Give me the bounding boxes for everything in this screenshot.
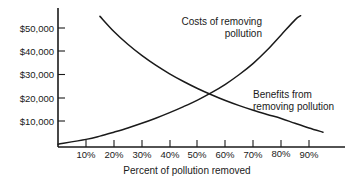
x-axis-tick-labels: 10% 20% 30% 40% 50% 60% 70% 80% 90% <box>76 148 319 160</box>
x-tick-label: 60% <box>215 149 235 160</box>
x-tick-label: 30% <box>132 149 152 160</box>
chart-plot-area: $50,000 $40,000 $30,000 $20,000 $10,000 … <box>0 0 348 187</box>
y-tick-label: $50,000 <box>20 23 54 34</box>
chart-container: $50,000 $40,000 $30,000 $20,000 $10,000 … <box>0 0 348 187</box>
x-tick-label: 70% <box>243 149 263 160</box>
y-axis-tick-labels: $50,000 $40,000 $30,000 $20,000 $10,000 <box>20 23 54 127</box>
x-tick-label: 20% <box>104 149 124 160</box>
series-label-costs-line2: pollution <box>225 28 262 39</box>
series-label-costs: Costs of removing pollution <box>181 16 262 39</box>
y-tick-label: $10,000 <box>20 116 54 127</box>
x-tick-label: 40% <box>160 149 180 160</box>
x-tick-label: 50% <box>187 149 207 160</box>
x-tick-label: 10% <box>76 149 96 160</box>
series-label-benefits-line2: removing pollution <box>253 101 334 112</box>
series-label-costs-line1: Costs of removing <box>181 16 262 27</box>
y-tick-label: $40,000 <box>20 46 54 57</box>
x-tick-label: 80% <box>271 148 291 159</box>
y-axis-ticks <box>58 28 65 121</box>
x-axis-title: Percent of pollution removed <box>123 165 250 176</box>
y-tick-label: $30,000 <box>20 69 54 80</box>
x-axis-ticks <box>86 140 309 147</box>
series-label-benefits-line1: Benefits from <box>253 89 312 100</box>
series-curve-costs-of-removing-pollution <box>100 16 323 132</box>
series-label-benefits: Benefits from removing pollution <box>253 89 334 112</box>
x-tick-label: 90% <box>299 149 319 160</box>
y-tick-label: $20,000 <box>20 93 54 104</box>
